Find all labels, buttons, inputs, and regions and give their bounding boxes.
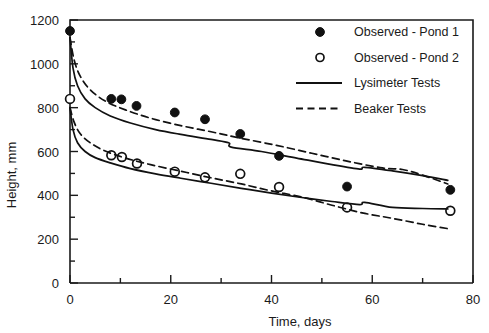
legend-label: Beaker Tests [354,102,426,116]
legend-label: Observed - Pond 2 [354,51,459,65]
y-tick-label: 400 [37,188,59,203]
legend-label: Lysimeter Tests [354,76,440,90]
legend-label: Observed - Pond 1 [354,25,459,39]
legend-marker-open-circle [316,54,324,62]
x-tick-label: 20 [164,292,178,307]
data-point-filled [343,182,352,191]
x-tick-label: 40 [264,292,278,307]
data-point-filled [117,95,126,104]
y-axis-title: Height, mm [4,142,19,208]
data-point-filled [132,102,141,111]
chart-container: 020040060080010001200 020406080 Observed… [0,0,489,333]
data-point-filled [66,27,75,36]
data-point-open [66,95,75,104]
data-point-filled [201,115,210,124]
data-point-filled [107,95,116,104]
y-tick-label: 600 [37,145,59,160]
x-axis-title: Time, days [268,314,332,329]
y-tick-label: 800 [37,101,59,116]
y-tick-label: 1200 [30,13,59,28]
data-point-open [236,169,245,178]
data-point-filled [446,185,455,194]
x-tick-label: 80 [466,292,480,307]
data-point-open [275,183,284,192]
legend-marker-filled-circle [316,28,325,37]
x-tick-label: 60 [365,292,379,307]
data-point-filled [170,108,179,117]
evaporation-height-chart: 020040060080010001200 020406080 Observed… [0,0,489,333]
y-tick-label: 1000 [30,57,59,72]
x-tick-label: 0 [66,292,73,307]
data-point-open [446,206,455,215]
y-tick-label: 200 [37,232,59,247]
y-tick-label: 0 [52,276,59,291]
